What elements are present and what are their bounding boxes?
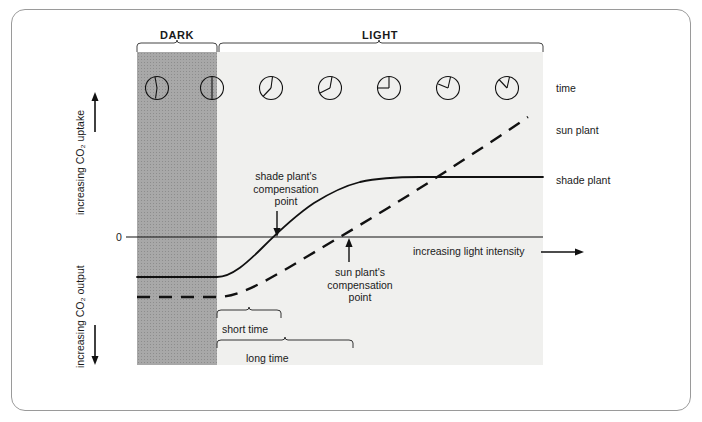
light-bracket <box>219 40 543 52</box>
sun-plant-curve <box>137 117 528 297</box>
shade-plant-curve <box>137 177 543 277</box>
y-up-arrow-head <box>92 92 99 101</box>
x-arrow-head <box>575 249 584 256</box>
sun-arrow-head <box>345 238 352 247</box>
y-down-arrow-head <box>92 356 99 365</box>
short-time-bracket <box>217 307 281 318</box>
figure-page: DARK LIGHT time sun plant shad <box>0 0 702 422</box>
chart-vectors <box>0 0 702 422</box>
dark-bracket <box>137 40 217 52</box>
long-time-bracket <box>217 337 353 348</box>
